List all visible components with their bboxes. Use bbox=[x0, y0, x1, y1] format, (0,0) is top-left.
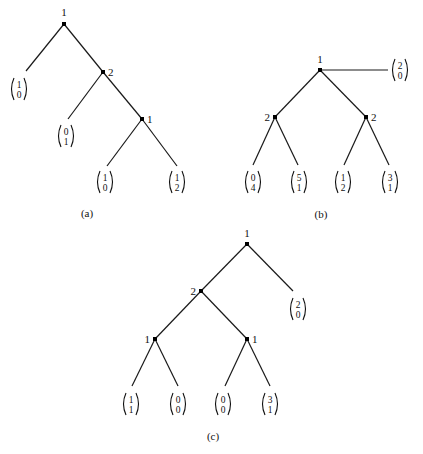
payoff-vector: 20 bbox=[291, 298, 306, 320]
decision-node bbox=[273, 115, 277, 119]
right-paren bbox=[258, 171, 261, 193]
payoff-player2: 1 bbox=[388, 183, 393, 193]
player-label: 2 bbox=[108, 66, 114, 78]
right-paren bbox=[183, 393, 186, 415]
right-paren bbox=[303, 298, 306, 320]
player-label: 1 bbox=[252, 333, 258, 345]
right-paren bbox=[110, 171, 113, 193]
right-paren bbox=[275, 393, 278, 415]
payoff-player2: 0 bbox=[103, 183, 108, 193]
decision-node bbox=[245, 337, 249, 341]
player-label: 1 bbox=[61, 6, 67, 18]
decision-node bbox=[153, 337, 157, 341]
payoff-player2: 0 bbox=[296, 310, 301, 320]
player-label: 2 bbox=[265, 111, 271, 123]
tree-edge bbox=[253, 117, 275, 165]
payoff-player1: 3 bbox=[268, 395, 273, 405]
payoff-vector: 10 bbox=[12, 78, 27, 100]
payoff-player1: 2 bbox=[296, 300, 301, 310]
left-paren bbox=[263, 393, 266, 415]
player-label: 2 bbox=[371, 111, 377, 123]
payoff-player1: 0 bbox=[64, 127, 69, 137]
payoff-vector: 12 bbox=[170, 171, 185, 193]
tree-edge bbox=[225, 339, 247, 386]
right-paren bbox=[136, 393, 139, 415]
payoff-vector: 31 bbox=[263, 393, 278, 415]
tree-edge bbox=[366, 117, 389, 165]
tree-edge bbox=[344, 117, 366, 165]
right-paren bbox=[405, 59, 408, 81]
tree-edge bbox=[68, 72, 103, 119]
tree-edge bbox=[275, 70, 320, 117]
right-paren bbox=[395, 171, 398, 193]
payoff-player1: 0 bbox=[221, 395, 226, 405]
player-label: 1 bbox=[147, 113, 153, 125]
player-label: 2 bbox=[191, 285, 197, 297]
left-paren bbox=[291, 298, 294, 320]
payoff-vector: 12 bbox=[336, 171, 351, 193]
tree-edge bbox=[132, 339, 155, 386]
tree-figure-c: 12112011000031(c) bbox=[124, 227, 306, 443]
right-paren bbox=[182, 171, 185, 193]
left-paren bbox=[383, 171, 386, 193]
tree-edge bbox=[247, 339, 270, 386]
tree-edge bbox=[26, 24, 64, 71]
payoff-vector: 00 bbox=[216, 393, 231, 415]
tree-edge bbox=[201, 244, 247, 291]
tree-figure-b: 1222004511231(b) bbox=[246, 53, 408, 221]
left-paren bbox=[124, 393, 127, 415]
left-paren bbox=[171, 393, 174, 415]
tree-edge bbox=[107, 119, 142, 166]
left-paren bbox=[216, 393, 219, 415]
payoff-player1: 3 bbox=[388, 173, 393, 183]
decision-node bbox=[140, 117, 144, 121]
payoff-vector: 10 bbox=[98, 171, 113, 193]
tree-edge bbox=[155, 339, 178, 386]
payoff-player1: 1 bbox=[129, 395, 134, 405]
left-paren bbox=[98, 171, 101, 193]
left-paren bbox=[292, 171, 295, 193]
payoff-player1: 1 bbox=[17, 80, 22, 90]
payoff-vector: 00 bbox=[171, 393, 186, 415]
payoff-vector: 51 bbox=[292, 171, 307, 193]
decision-node bbox=[245, 242, 249, 246]
payoff-player2: 4 bbox=[251, 183, 256, 193]
payoff-vector: 20 bbox=[393, 59, 408, 81]
payoff-player1: 1 bbox=[341, 173, 346, 183]
tree-edge bbox=[64, 24, 103, 72]
payoff-player1: 1 bbox=[103, 173, 108, 183]
left-paren bbox=[246, 171, 249, 193]
left-paren bbox=[393, 59, 396, 81]
payoff-player2: 2 bbox=[341, 183, 346, 193]
payoff-vector: 01 bbox=[59, 125, 74, 147]
payoff-player2: 0 bbox=[221, 405, 226, 415]
payoff-player1: 0 bbox=[251, 173, 256, 183]
figure-caption: (c) bbox=[207, 430, 220, 443]
payoff-player2: 0 bbox=[17, 90, 22, 100]
payoff-player2: 0 bbox=[398, 71, 403, 81]
left-paren bbox=[170, 171, 173, 193]
right-paren bbox=[304, 171, 307, 193]
decision-node bbox=[318, 68, 322, 72]
player-label: 1 bbox=[244, 227, 250, 239]
payoff-vector: 04 bbox=[246, 171, 261, 193]
tree-figure-a: 12110011012(a) bbox=[12, 6, 185, 220]
figure-caption: (a) bbox=[81, 207, 94, 220]
player-label: 1 bbox=[317, 53, 323, 65]
left-paren bbox=[12, 78, 15, 100]
left-paren bbox=[336, 171, 339, 193]
tree-edge bbox=[103, 72, 142, 119]
tree-edge bbox=[155, 291, 201, 339]
right-paren bbox=[228, 393, 231, 415]
payoff-player1: 5 bbox=[297, 173, 302, 183]
tree-edge bbox=[247, 244, 293, 291]
payoff-player2: 1 bbox=[268, 405, 273, 415]
payoff-player1: 1 bbox=[175, 173, 180, 183]
payoff-player2: 1 bbox=[297, 183, 302, 193]
decision-node bbox=[199, 289, 203, 293]
payoff-player2: 0 bbox=[176, 405, 181, 415]
payoff-player2: 1 bbox=[129, 405, 134, 415]
payoff-player2: 2 bbox=[175, 183, 180, 193]
right-paren bbox=[24, 78, 27, 100]
decision-node bbox=[101, 70, 105, 74]
